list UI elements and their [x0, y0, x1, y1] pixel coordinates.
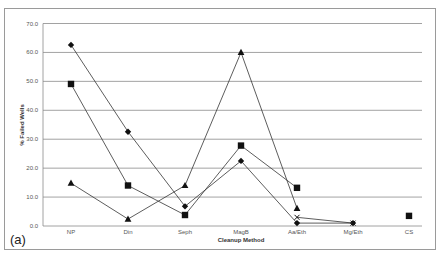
data-point-triangle: [68, 180, 75, 186]
data-point-diamond: [125, 128, 131, 134]
data-point-triangle: [125, 215, 132, 221]
y-tick-label: 70.0: [26, 21, 38, 27]
data-point-triangle: [294, 205, 301, 211]
x-tick-label: Aa/Eth: [288, 229, 306, 235]
panel-label: (a): [10, 232, 26, 247]
x-series: [295, 215, 356, 226]
x-tick-label: Seph: [178, 229, 192, 235]
data-point-diamond: [68, 42, 74, 48]
y-tick-label: 60.0: [26, 49, 38, 55]
data-point-square: [406, 213, 412, 219]
data-point-square: [125, 182, 131, 188]
y-tick-label: 0.0: [30, 223, 39, 229]
x-tick-label: MagB: [233, 229, 249, 235]
y-tick-label: 30.0: [26, 136, 38, 142]
data-point-square: [68, 81, 74, 87]
y-tick-label: 50.0: [26, 78, 38, 84]
square-series: [68, 81, 412, 219]
data-point-triangle: [182, 182, 189, 188]
x-tick-label: CS: [405, 229, 413, 235]
y-axis-title: % Failed Wells: [19, 104, 25, 146]
line-chart: 0.010.020.030.040.050.060.070.0NPDinSeph…: [0, 0, 439, 255]
data-point-triangle: [238, 49, 245, 55]
x-axis-title: Cleanup Method: [218, 237, 265, 243]
triangle-series: [68, 49, 301, 222]
data-point-square: [182, 212, 188, 218]
data-point-square: [294, 185, 300, 191]
y-tick-label: 20.0: [26, 165, 38, 171]
diamond-series: [68, 42, 356, 227]
x-tick-label: NP: [67, 229, 75, 235]
data-point-square: [238, 142, 244, 148]
y-tick-label: 10.0: [26, 194, 38, 200]
x-tick-label: Mg/Eth: [343, 229, 362, 235]
y-tick-label: 40.0: [26, 107, 38, 113]
x-tick-label: Din: [123, 229, 132, 235]
